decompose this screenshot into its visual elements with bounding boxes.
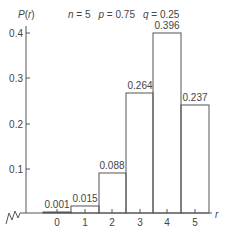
svg-text:5: 5 — [192, 217, 198, 228]
svg-text:3: 3 — [137, 217, 143, 228]
value-label: 0.237 — [182, 92, 207, 103]
svg-text:1: 1 — [82, 217, 88, 228]
y-ticks: 0.4 0.3 0.2 0.1 — [9, 28, 30, 175]
value-label: 0.001 — [44, 199, 69, 210]
axis-break-icon — [6, 211, 27, 224]
x-axis-label: r — [215, 209, 219, 220]
value-label: 0.088 — [99, 160, 124, 171]
value-label: 0.264 — [127, 80, 152, 91]
value-label: 0.015 — [72, 193, 97, 204]
ytick-label: 0.4 — [9, 28, 23, 39]
value-label: 0.396 — [154, 20, 179, 31]
bar-r4 — [153, 33, 181, 213]
svg-text:2: 2 — [109, 217, 115, 228]
ytick-label: 0.2 — [9, 119, 23, 130]
y-axis-label: P(r) — [18, 9, 35, 20]
bar-r2 — [99, 173, 126, 213]
bars — [43, 33, 209, 213]
svg-text:4: 4 — [164, 217, 170, 228]
binomial-histogram: 0.4 0.3 0.2 0.1 P(r) n = 5p = 0.75q = 0.… — [0, 0, 229, 232]
svg-text:0: 0 — [54, 217, 60, 228]
bar-r5 — [181, 105, 209, 213]
chart-title: n = 5p = 0.75q = 0.25 — [68, 9, 180, 20]
ytick-label: 0.3 — [9, 73, 23, 84]
bar-r3 — [126, 93, 153, 213]
x-tick-labels: 0 1 2 3 4 5 — [54, 217, 198, 228]
ytick-label: 0.1 — [9, 164, 23, 175]
